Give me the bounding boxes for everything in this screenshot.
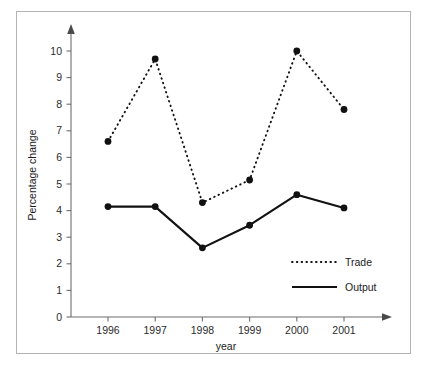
y-tick-label: 10 bbox=[50, 45, 62, 57]
y-tick-1: 1 bbox=[56, 284, 71, 296]
y-tick-label: 1 bbox=[56, 284, 62, 296]
y-tick-7: 7 bbox=[56, 124, 71, 136]
line-chart: 0 1 2 3 4 5 6 bbox=[0, 0, 427, 368]
y-tick-0: 0 bbox=[56, 311, 71, 323]
legend-entry-output: Output bbox=[292, 281, 377, 293]
series-output bbox=[105, 191, 348, 251]
output-point-1997 bbox=[152, 203, 159, 210]
legend-entry-trade: Trade bbox=[292, 256, 372, 268]
chart-figure: 0 1 2 3 4 5 6 bbox=[0, 0, 427, 368]
output-point-2001 bbox=[341, 205, 348, 212]
x-tick-1996: 1996 bbox=[96, 317, 120, 336]
x-tick-label: 1999 bbox=[238, 324, 262, 336]
y-tick-3: 3 bbox=[56, 231, 71, 243]
output-point-2000 bbox=[293, 191, 300, 198]
x-tick-group: 1996 1997 1998 1999 2000 2001 bbox=[96, 317, 356, 336]
x-tick-label: 1996 bbox=[96, 324, 120, 336]
output-point-1996 bbox=[105, 203, 112, 210]
x-tick-2000: 2000 bbox=[285, 317, 309, 336]
y-tick-label: 9 bbox=[56, 71, 62, 83]
y-axis-title: Percentage change bbox=[26, 129, 38, 220]
x-tick-label: 2001 bbox=[332, 324, 356, 336]
y-tick-label: 0 bbox=[56, 311, 62, 323]
y-tick-label: 8 bbox=[56, 98, 62, 110]
y-tick-8: 8 bbox=[56, 98, 71, 110]
legend-label-trade: Trade bbox=[345, 256, 372, 268]
output-point-1999 bbox=[246, 222, 253, 229]
x-tick-label: 1998 bbox=[191, 324, 215, 336]
series-trade bbox=[105, 48, 348, 206]
trade-point-2001 bbox=[341, 106, 348, 113]
y-tick-label: 4 bbox=[56, 204, 62, 216]
y-tick-label: 3 bbox=[56, 231, 62, 243]
x-tick-1998: 1998 bbox=[191, 317, 215, 336]
y-tick-9: 9 bbox=[56, 71, 71, 83]
x-axis-title: year bbox=[216, 340, 237, 352]
chart-legend: Trade Output bbox=[292, 256, 377, 293]
y-tick-5: 5 bbox=[56, 178, 71, 190]
y-tick-2: 2 bbox=[56, 257, 71, 269]
y-tick-label: 2 bbox=[56, 257, 62, 269]
legend-label-output: Output bbox=[345, 281, 377, 293]
y-axis bbox=[67, 24, 75, 317]
y-tick-10: 10 bbox=[50, 45, 71, 57]
x-tick-2001: 2001 bbox=[332, 317, 356, 336]
trade-point-1997 bbox=[152, 56, 159, 63]
x-axis-arrow-icon bbox=[382, 313, 392, 321]
x-tick-label: 1997 bbox=[144, 324, 168, 336]
trade-line bbox=[108, 51, 344, 203]
y-tick-group: 0 1 2 3 4 5 6 bbox=[50, 45, 71, 323]
y-axis-arrow-icon bbox=[67, 24, 75, 34]
x-tick-1997: 1997 bbox=[144, 317, 168, 336]
y-tick-4: 4 bbox=[56, 204, 71, 216]
x-tick-1999: 1999 bbox=[238, 317, 262, 336]
trade-point-2000 bbox=[293, 48, 300, 55]
y-tick-label: 7 bbox=[56, 124, 62, 136]
y-tick-label: 5 bbox=[56, 178, 62, 190]
x-tick-label: 2000 bbox=[285, 324, 309, 336]
output-point-1998 bbox=[199, 244, 206, 251]
trade-point-1996 bbox=[105, 138, 112, 145]
trade-point-1998 bbox=[199, 199, 206, 206]
output-line bbox=[108, 195, 344, 248]
y-tick-6: 6 bbox=[56, 151, 71, 163]
y-tick-label: 6 bbox=[56, 151, 62, 163]
trade-point-1999 bbox=[246, 177, 253, 184]
